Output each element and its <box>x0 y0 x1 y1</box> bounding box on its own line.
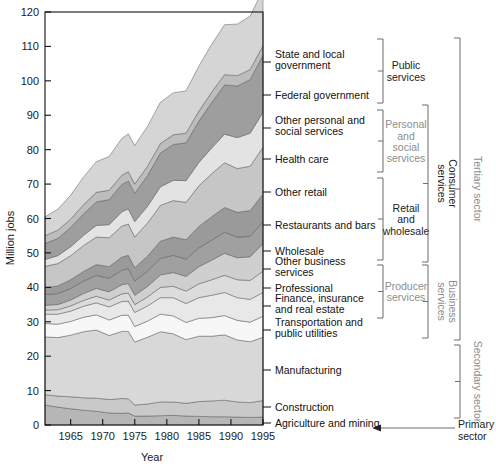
bracket-group: Publicservices <box>377 39 425 103</box>
bracket-label-text: Retail <box>393 202 420 214</box>
label-leader-ticks <box>263 62 271 423</box>
y-axis-title: Million jobs <box>4 210 16 265</box>
bracket-label-text: Consumerservices <box>436 159 459 208</box>
x-tick-label: 1965 <box>58 430 82 442</box>
y-tick-label: 80 <box>27 144 39 156</box>
bracket-label-text: services <box>387 291 426 303</box>
bracket-label-text: Personal <box>385 118 426 130</box>
category-labels: State and localgovernmentFederal governm… <box>275 48 380 429</box>
bracket-group: Consumerservices <box>422 105 459 262</box>
bracket-label: Businessservices <box>436 280 459 323</box>
bracket-group: Producerservices <box>377 265 428 318</box>
category-label-line2: and real estate <box>275 303 345 315</box>
x-tick-label: 1990 <box>219 430 243 442</box>
category-label: Restaurants and bars <box>275 219 375 231</box>
category-label-line1: Agriculture and mining <box>275 417 380 429</box>
bracket-label-text: Public <box>392 59 421 71</box>
y-tick-label: 60 <box>27 213 39 225</box>
y-tick-label: 40 <box>27 281 39 293</box>
bracket-label: Consumerservices <box>436 159 459 208</box>
category-label: Federal government <box>275 89 369 101</box>
bracket-label-text: and <box>397 213 415 225</box>
x-tick-label: 1995 <box>251 430 275 442</box>
x-tick-label: 1985 <box>187 430 211 442</box>
category-label: Other personal andsocial services <box>275 114 365 137</box>
bracket-label-text: social <box>393 141 420 153</box>
y-tick-label: 0 <box>33 419 39 431</box>
primary-sector-label: Primary <box>458 418 495 430</box>
chart-figure: 0102030405060708090100110120 19651970197… <box>0 0 496 466</box>
category-label: Other retail <box>275 186 327 198</box>
bracket-label: Secondary sector <box>472 341 484 423</box>
bracket-label: Producerservices <box>385 280 428 303</box>
y-tick-label: 110 <box>21 40 39 52</box>
category-label: Construction <box>275 401 334 413</box>
x-tick-label: 1975 <box>123 430 147 442</box>
bracket-group: Personalandsocialservices <box>377 110 427 172</box>
y-tick-label: 100 <box>21 75 39 87</box>
primary-sector-label: sector <box>458 430 487 442</box>
group-brackets: PublicservicesPersonalandsocialservicesR… <box>372 38 495 442</box>
category-label-line1: Federal government <box>275 89 369 101</box>
bracket-label-text: services <box>387 152 426 164</box>
category-label-line2: social services <box>275 125 343 137</box>
category-label: Other businessservices <box>275 255 346 278</box>
category-label-line1: Restaurants and bars <box>275 219 375 231</box>
bracket-label-text: Secondary sector <box>472 341 484 423</box>
category-label-line1: Construction <box>275 401 334 413</box>
category-label-line2: government <box>275 59 331 71</box>
category-label: Transportation andpublic utilities <box>275 316 363 339</box>
category-label-line2: public utilities <box>275 327 337 339</box>
category-label: Finance, insuranceand real estate <box>275 292 364 315</box>
x-tick-label: 1970 <box>90 430 114 442</box>
primary-sector-annotation: Primarysector <box>372 418 495 442</box>
category-label: Health care <box>275 153 329 165</box>
y-tick-label: 20 <box>27 350 39 362</box>
bracket-label: Retailandwholesale <box>382 202 430 237</box>
bracket-group: Secondary sector <box>454 341 484 423</box>
chart-areas <box>45 0 263 425</box>
y-tick-label: 30 <box>27 316 39 328</box>
bracket-group: Retailandwholesale <box>377 178 430 260</box>
stacked-area-chart: 0102030405060708090100110120 19651970197… <box>0 0 496 466</box>
category-label: Manufacturing <box>275 364 342 376</box>
bracket-label-text: services <box>387 71 426 83</box>
bracket-group: Businessservices <box>422 265 459 338</box>
bracket-label-text: and <box>397 130 415 142</box>
y-tick-label: 90 <box>27 109 39 121</box>
bracket-label-text: Tertiary sector <box>472 156 484 222</box>
category-label-line1: Manufacturing <box>275 364 342 376</box>
category-label-line1: Other retail <box>275 186 327 198</box>
bracket-label-text: Businessservices <box>436 280 459 323</box>
y-tick-label: 120 <box>21 6 39 18</box>
category-label-line2: services <box>275 266 314 278</box>
category-label-line1: Health care <box>275 153 329 165</box>
x-tick-label: 1980 <box>155 430 179 442</box>
bracket-label: Personalandsocialservices <box>385 118 426 164</box>
category-label: State and localgovernment <box>275 48 344 71</box>
y-tick-label: 50 <box>27 247 39 259</box>
bracket-label: Tertiary sector <box>472 156 484 222</box>
bracket-label-text: Producer <box>385 280 428 292</box>
bracket-label-text: wholesale <box>382 225 430 237</box>
bracket-label: Publicservices <box>387 59 426 82</box>
x-axis-title: Year <box>141 451 164 463</box>
y-tick-label: 70 <box>27 178 39 190</box>
category-label: Agriculture and mining <box>275 417 380 429</box>
area-band <box>45 330 263 405</box>
y-tick-label: 10 <box>27 385 39 397</box>
